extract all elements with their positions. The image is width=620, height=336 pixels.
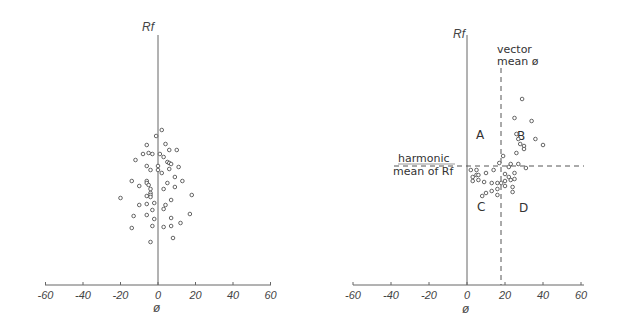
right-y-axis-label: Rf — [453, 27, 467, 41]
data-point — [162, 155, 166, 159]
x-tick-label: 0 — [464, 289, 471, 301]
data-point — [156, 168, 160, 172]
x-tick-label: -40 — [383, 289, 400, 301]
data-point — [522, 147, 526, 151]
data-point — [496, 193, 500, 197]
data-point — [513, 177, 517, 181]
data-point — [119, 196, 123, 200]
data-point — [190, 193, 194, 197]
data-point — [145, 194, 149, 198]
data-point — [484, 171, 488, 175]
data-point — [162, 187, 166, 191]
data-point — [154, 134, 158, 138]
data-point — [175, 148, 179, 152]
left-y-axis-label: Rf — [142, 20, 156, 34]
data-point — [147, 183, 151, 187]
data-point — [471, 179, 475, 183]
data-point — [513, 116, 517, 120]
data-point — [169, 162, 173, 166]
data-point — [149, 187, 153, 191]
data-point — [507, 165, 511, 169]
x-tick-label: 60 — [575, 289, 588, 301]
quadrant-label-a: A — [476, 128, 485, 142]
data-point — [164, 203, 168, 207]
data-point — [511, 190, 515, 194]
quadrant-label-d: D — [519, 201, 528, 215]
data-point — [147, 151, 151, 155]
data-point — [515, 151, 519, 155]
x-tick-label: 20 — [498, 289, 512, 301]
data-point — [160, 171, 164, 175]
data-point — [477, 173, 481, 177]
data-point — [141, 152, 145, 156]
x-tick-label: 40 — [227, 289, 240, 301]
data-point — [149, 240, 153, 244]
x-tick-label: -20 — [421, 289, 438, 301]
right-data-points — [469, 97, 545, 198]
data-point — [151, 224, 155, 228]
x-tick-label: -60 — [38, 289, 55, 301]
data-point — [490, 189, 494, 193]
right-plot: -60-40-200204060 Rf ø vector mean ø harm… — [345, 27, 588, 316]
data-point — [515, 132, 519, 136]
data-point — [177, 165, 181, 169]
data-point — [173, 175, 177, 179]
data-point — [530, 119, 534, 123]
data-point — [469, 168, 473, 172]
data-point — [181, 179, 185, 183]
data-point — [137, 184, 141, 188]
data-point — [475, 168, 479, 172]
figure: -60-40-200204060 Rf ø -60-40-200204060 R… — [0, 0, 620, 336]
left-plot: -60-40-200204060 Rf ø — [38, 20, 278, 315]
data-point — [507, 175, 511, 179]
data-point — [145, 202, 149, 206]
data-point — [524, 166, 528, 170]
data-point — [482, 180, 486, 184]
data-point — [496, 181, 500, 185]
data-point — [501, 154, 505, 158]
data-point — [534, 137, 538, 141]
data-point — [169, 216, 173, 220]
data-point — [130, 179, 134, 183]
data-point — [169, 224, 173, 228]
data-point — [471, 175, 475, 179]
data-point — [130, 226, 134, 230]
data-point — [149, 195, 153, 199]
data-point — [173, 185, 177, 189]
data-point — [541, 143, 545, 147]
data-point — [151, 208, 155, 212]
left-data-points — [119, 128, 194, 244]
data-point — [149, 168, 153, 172]
vector-mean-label-line2: mean ø — [497, 55, 539, 68]
data-point — [520, 97, 524, 101]
data-point — [134, 158, 138, 162]
data-point — [167, 148, 171, 152]
data-point — [503, 172, 507, 176]
harmonic-mean-label-line2: mean of Rf — [393, 165, 454, 178]
data-point — [513, 171, 517, 175]
data-point — [517, 162, 521, 166]
data-point — [160, 128, 164, 132]
data-point — [151, 152, 155, 156]
data-point — [162, 207, 166, 211]
data-point — [156, 164, 160, 168]
x-tick-label: 40 — [537, 289, 550, 301]
x-tick-label: -40 — [75, 289, 92, 301]
left-x-axis-label: ø — [153, 301, 161, 315]
data-point — [188, 212, 192, 216]
data-point — [171, 236, 175, 240]
data-point — [517, 137, 521, 141]
data-point — [179, 221, 183, 225]
data-point — [152, 217, 156, 221]
data-point — [167, 167, 171, 171]
data-point — [166, 181, 170, 185]
data-point — [145, 213, 149, 217]
x-tick-label: -60 — [345, 289, 362, 301]
data-point — [145, 143, 149, 147]
data-point — [518, 142, 522, 146]
data-point — [492, 168, 496, 172]
data-point — [164, 142, 168, 146]
data-point — [145, 164, 149, 168]
x-tick-label: -20 — [113, 289, 130, 301]
data-point — [499, 181, 503, 185]
